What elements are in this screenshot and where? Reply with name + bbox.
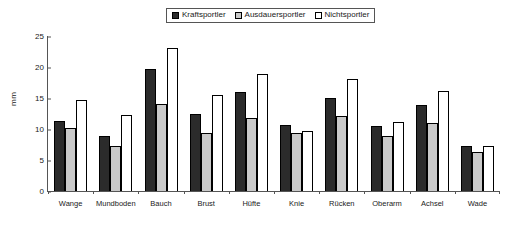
legend-item-ausdauersportler: Ausdauersportler [235, 11, 306, 19]
bar[interactable] [427, 123, 438, 191]
chart-legend: Kraftsportler Ausdauersportler Nichtspor… [166, 8, 375, 23]
x-axis-tick-label: Wade [468, 199, 487, 208]
x-axis-tick [138, 191, 139, 194]
y-axis-tick-label: 10 [35, 125, 48, 134]
legend-label: Nichtsportler [325, 11, 370, 19]
legend-swatch-icon [315, 12, 322, 19]
y-axis-tick-label: 5 [40, 156, 48, 165]
x-axis-tick [93, 191, 94, 194]
legend-swatch-icon [235, 12, 242, 19]
x-axis-tick [48, 191, 49, 194]
bar[interactable] [371, 126, 382, 191]
legend-item-nichtsportler: Nichtsportler [315, 11, 370, 19]
bar[interactable] [461, 146, 472, 191]
bar[interactable] [382, 136, 393, 191]
bar[interactable] [212, 95, 223, 191]
bar[interactable] [291, 133, 302, 191]
bar-group: Mundboden [93, 36, 138, 191]
bar[interactable] [302, 131, 313, 191]
x-axis-tick-label: Knie [289, 199, 304, 208]
x-axis-tick [499, 191, 500, 194]
x-axis-tick [184, 191, 185, 194]
x-axis-tick [274, 191, 275, 194]
x-axis-tick [364, 191, 365, 194]
x-axis-tick-label: Oberarm [372, 199, 402, 208]
legend-label: Ausdauersportler [245, 11, 306, 19]
y-axis-tick-label: 15 [35, 94, 48, 103]
bar[interactable] [246, 118, 257, 191]
bar[interactable] [393, 122, 404, 191]
x-axis-tick-label: Rücken [329, 199, 354, 208]
y-axis-tick-label: 20 [35, 63, 48, 72]
bar[interactable] [145, 69, 156, 191]
x-axis-tick-label: Bauch [150, 199, 171, 208]
x-axis-tick-label: Achsel [421, 199, 444, 208]
x-axis-tick-label: Mundboden [96, 199, 136, 208]
bar[interactable] [76, 100, 87, 191]
x-axis-tick-label: Wange [59, 199, 83, 208]
plot-area: 0510152025 WangeMundbodenBauchBrustHüfte… [47, 36, 500, 192]
bar[interactable] [280, 125, 291, 191]
bar[interactable] [54, 121, 65, 191]
y-axis-tick-label: 0 [40, 187, 48, 196]
bar-group: Brust [184, 36, 229, 191]
bar[interactable] [156, 104, 167, 191]
bar[interactable] [190, 114, 201, 191]
bar-group: Wange [48, 36, 93, 191]
bar[interactable] [167, 48, 178, 191]
bar-group: Knie [274, 36, 319, 191]
bar[interactable] [201, 133, 212, 191]
bar[interactable] [438, 91, 449, 191]
y-axis-title: mm [9, 92, 18, 106]
bar-group: Bauch [138, 36, 183, 191]
bar[interactable] [347, 79, 358, 191]
legend-item-kraftsportler: Kraftsportler [172, 11, 226, 19]
bar-group: Achsel [410, 36, 455, 191]
bar[interactable] [483, 146, 494, 191]
bar-group: Oberarm [364, 36, 409, 191]
bar[interactable] [257, 74, 268, 191]
bar[interactable] [65, 128, 76, 191]
bar-groups: WangeMundbodenBauchBrustHüfteKnieRückenO… [48, 36, 500, 191]
x-axis-tick-label: Brust [197, 199, 215, 208]
bar-group: Rücken [319, 36, 364, 191]
x-axis-tick [229, 191, 230, 194]
bar[interactable] [472, 152, 483, 191]
bar[interactable] [235, 92, 246, 191]
x-axis-tick [455, 191, 456, 194]
x-axis-tick [319, 191, 320, 194]
bar[interactable] [325, 98, 336, 191]
bar[interactable] [110, 146, 121, 191]
bar-group: Wade [455, 36, 500, 191]
bar[interactable] [416, 105, 427, 191]
y-axis-tick-label: 25 [35, 32, 48, 41]
bar-group: Hüfte [229, 36, 274, 191]
bar[interactable] [336, 116, 347, 191]
legend-label: Kraftsportler [182, 11, 226, 19]
bar[interactable] [121, 115, 132, 191]
legend-swatch-icon [172, 12, 179, 19]
x-axis-tick-label: Hüfte [242, 199, 260, 208]
bar[interactable] [99, 136, 110, 191]
x-axis-tick [410, 191, 411, 194]
